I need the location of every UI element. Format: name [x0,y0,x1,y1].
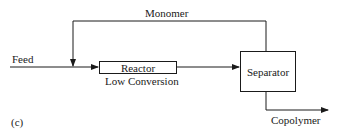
panel-label: (c) [11,116,23,128]
copolymer-label: Copolymer [271,114,321,126]
monomer-recycle-line [73,21,266,66]
feed-label: Feed [12,53,33,65]
monomer-label: Monomer [145,7,188,19]
reactor-sublabel: Low Conversion [105,75,179,87]
separator-label: Separator [247,66,289,78]
separator-box: Separator [240,51,296,92]
reactor-label: Reactor [121,62,155,74]
reactor-box: Reactor [99,61,177,74]
copolymer-product-line [266,91,328,110]
